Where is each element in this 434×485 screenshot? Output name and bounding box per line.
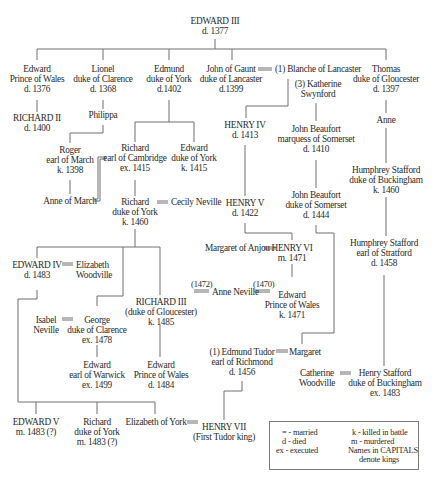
dates: k. 1415 — [171, 163, 216, 173]
dates: d. 1368 — [73, 84, 133, 94]
title: duke of Buckingham — [348, 378, 421, 388]
name: George — [67, 315, 127, 325]
person-richard-duke-of-york: Richard duke of York k. 1460 — [112, 197, 157, 228]
name: Margaret of Anjou — [205, 243, 270, 253]
person-john-of-gaunt: John of Gaunt duke of Lancaster d.1399 — [200, 64, 262, 95]
dates: d. 1484 — [134, 380, 189, 390]
person-henry-stafford: Henry Stafford duke of Buckingham ex. 14… — [348, 368, 421, 399]
title: Prince of Wales — [10, 74, 65, 84]
person-anne-of-march: Anne of March — [43, 196, 97, 206]
person-humphrey-stafford-buckingham: Humphrey Stafford duke of Buckingham k. … — [349, 165, 422, 196]
title: duke of Somerset — [285, 200, 346, 210]
name: John of Gaunt — [200, 64, 262, 74]
title: (First Tudor king) — [193, 432, 255, 442]
name: EDWARD IV — [12, 260, 62, 270]
person-john-beaufort-duke: John Beaufort duke of Somerset d. 1444 — [285, 190, 346, 221]
name: (3) Katherine — [295, 79, 342, 89]
person-richard-iii: RICHARD III (duke of Gloucester) k. 1485 — [125, 297, 197, 328]
name: Catherine — [299, 368, 335, 378]
person-cecily-neville: Cecily Neville — [171, 197, 221, 207]
marriage-year-1470: (1470) — [253, 280, 274, 289]
name: (1) Blanche of Lancaster — [275, 64, 361, 74]
person-richard-duke-of-york-1483: Richard duke of York m. 1483 (?) — [74, 417, 119, 448]
name: EDWARD V — [13, 417, 60, 427]
name: John Beaufort — [277, 124, 354, 134]
name-cont: Woodville — [76, 270, 112, 280]
title: duke of Clarence — [67, 325, 127, 335]
legend-box: = - married d - died ex - executed k - k… — [269, 421, 419, 470]
dates: d. 1377 — [191, 26, 240, 36]
name: Isabel — [33, 315, 59, 325]
title: earl of Cambridge — [103, 153, 166, 163]
person-thomas: Thomas duke of Gloucester d. 1397 — [353, 64, 419, 95]
person-richard-ii: RICHARD II d. 1400 — [13, 113, 61, 133]
person-edward-earl-of-warwick: Edward earl of Warwick ex. 1499 — [69, 360, 125, 391]
dates: ex. 1415 — [103, 163, 166, 173]
dates: m. 1483 (?) — [74, 437, 119, 447]
name: Thomas — [353, 64, 419, 74]
dates: ex. 1478 — [67, 335, 127, 345]
person-edward-prince-of-wales-1471: Edward Prince of Wales k. 1471 — [265, 290, 320, 321]
person-lionel: Lionel duke of Clarence d. 1368 — [73, 64, 133, 95]
dates: m. 1483 (?) — [13, 427, 60, 437]
name: Margaret — [289, 347, 321, 357]
title: earl of Warwick — [69, 370, 125, 380]
dates: d. 1413 — [224, 130, 265, 140]
person-edward-iii: EDWARD III d. 1377 — [191, 16, 240, 36]
person-catherine-woodville: Catherine Woodville — [299, 368, 335, 388]
title: duke of York — [146, 74, 191, 84]
name-cont: Swynford — [295, 89, 342, 99]
dates: d. 1458 — [350, 258, 418, 268]
person-edmund: Edmund duke of York d.1402 — [146, 64, 191, 95]
person-edward-prince-of-wales: Edward Prince of Wales d. 1376 — [10, 64, 65, 95]
title: earl of March — [46, 155, 93, 165]
name: Richard — [74, 417, 119, 427]
person-john-beaufort-marquess: John Beaufort marquess of Somerset d. 14… — [277, 124, 354, 155]
dates: k. 1398 — [46, 165, 93, 175]
name: Edward — [69, 360, 125, 370]
name: RICHARD III — [125, 297, 197, 307]
dates: d. 1444 — [285, 210, 346, 220]
title: duke of Gloucester — [353, 74, 419, 84]
name: HENRY VII — [193, 422, 255, 432]
dates: d. 1410 — [277, 144, 354, 154]
marriage-year-1472: (1472) — [191, 280, 212, 289]
person-edward-iv: EDWARD IV d. 1483 — [12, 260, 62, 280]
family-tree: EDWARD III d. 1377 Edward Prince of Wale… — [0, 0, 434, 485]
title: marquess of Somerset — [277, 134, 354, 144]
name-cont: Neville — [33, 325, 59, 335]
name: Richard — [103, 143, 166, 153]
dates: m. 1471 — [271, 253, 312, 263]
name: HENRY VI — [271, 243, 312, 253]
person-blanche-of-lancaster: (1) Blanche of Lancaster — [275, 64, 361, 74]
person-edward-prince-of-wales-1484: Edward Prince of Wales d. 1484 — [134, 360, 189, 391]
person-anne: Anne — [376, 115, 395, 125]
name: RICHARD II — [13, 113, 61, 123]
name: Humphrey Stafford — [350, 238, 418, 248]
person-roger-earl-of-march: Roger earl of March k. 1398 — [46, 145, 93, 176]
title: earl of Stratford — [350, 248, 418, 258]
legend-kings: denote kings — [359, 455, 399, 465]
dates: d. 1400 — [13, 123, 61, 133]
name: Anne Neville — [212, 287, 259, 297]
dates: k. 1485 — [125, 317, 197, 327]
name: Henry Stafford — [348, 368, 421, 378]
person-edward-v: EDWARD V m. 1483 (?) — [13, 417, 60, 437]
title: duke of York — [112, 207, 157, 217]
dates: d. 1483 — [12, 270, 62, 280]
person-edward-duke-of-york: Edward duke of York k. 1415 — [171, 143, 216, 174]
person-henry-vi: HENRY VI m. 1471 — [271, 243, 312, 263]
name: Elizabeth of York — [125, 417, 186, 427]
dates: d. 1422 — [226, 208, 264, 218]
person-henry-vii: HENRY VII (First Tudor king) — [193, 422, 255, 442]
legend-executed: ex - executed — [276, 446, 318, 456]
name: Elizabeth — [76, 260, 112, 270]
name: Edward — [171, 143, 216, 153]
name: (1) Edmund Tudor — [209, 347, 274, 357]
name: Anne of March — [43, 196, 97, 206]
person-humphrey-stafford-stratford: Humphrey Stafford earl of Stratford d. 1… — [350, 238, 418, 269]
title: duke of Clarence — [73, 74, 133, 84]
person-elizabeth-woodville: Elizabeth Woodville — [76, 260, 112, 280]
dates: k. 1471 — [265, 310, 320, 320]
dates: ex. 1499 — [69, 380, 125, 390]
